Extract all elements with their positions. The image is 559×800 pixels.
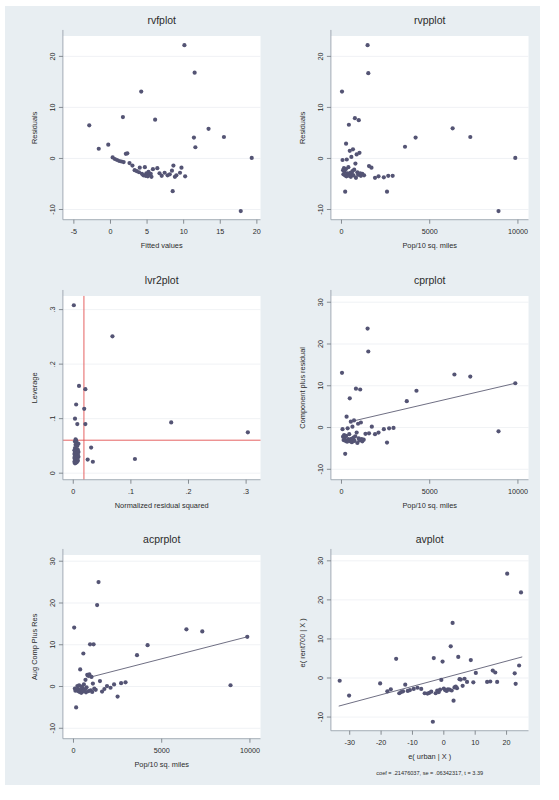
svg-text:cprplot: cprplot <box>414 275 446 286</box>
svg-text:0: 0 <box>316 425 324 429</box>
svg-text:20: 20 <box>502 739 510 747</box>
figure-page: -1001020-505101520rvfplotFitted valuesRe… <box>5 6 540 785</box>
svg-text:Residuals: Residuals <box>297 111 306 144</box>
svg-text:0: 0 <box>316 676 324 680</box>
chart-rvpplot: -10010200500010000rvpplotPop/10 sq. mile… <box>273 6 541 266</box>
svg-text:Residuals: Residuals <box>30 111 39 144</box>
svg-text:0: 0 <box>71 487 75 495</box>
svg-text:10: 10 <box>316 103 324 111</box>
svg-text:Leverage: Leverage <box>30 372 39 403</box>
svg-text:30: 30 <box>316 298 324 306</box>
svg-text:10: 10 <box>49 641 57 649</box>
panel-rvpplot: -10010200500010000rvpplotPop/10 sq. mile… <box>273 6 541 266</box>
svg-text:0: 0 <box>49 685 57 689</box>
svg-text:10000: 10000 <box>240 747 260 755</box>
svg-text:.2: .2 <box>186 487 192 495</box>
svg-text:20: 20 <box>49 599 57 607</box>
svg-text:Pop/10 sq. miles: Pop/10 sq. miles <box>402 241 457 250</box>
svg-text:10: 10 <box>49 103 57 111</box>
svg-text:30: 30 <box>49 558 57 566</box>
svg-text:15: 15 <box>216 228 224 236</box>
svg-text:20: 20 <box>316 340 324 348</box>
chart-avplot: -100102030-30-20-1001020avplote( urban |… <box>273 525 541 785</box>
svg-text:20: 20 <box>316 596 324 604</box>
svg-text:-10: -10 <box>316 204 324 214</box>
svg-text:10: 10 <box>316 635 324 643</box>
svg-text:-10: -10 <box>316 712 324 722</box>
svg-text:rvpplot: rvpplot <box>414 15 446 26</box>
svg-text:0: 0 <box>339 228 343 236</box>
svg-text:10000: 10000 <box>507 228 527 236</box>
svg-text:avplot: avplot <box>415 534 443 545</box>
svg-text:.2: .2 <box>49 361 57 367</box>
panel-lvr2plot: 0.1.2.30.1.2.3lvr2plotNormalized residua… <box>5 266 273 526</box>
panel-avplot: -100102030-30-20-1001020avplote( urban |… <box>273 525 541 785</box>
svg-text:-10: -10 <box>49 723 57 733</box>
svg-text:10: 10 <box>180 228 188 236</box>
chart-lvr2plot: 0.1.2.30.1.2.3lvr2plotNormalized residua… <box>5 266 273 526</box>
svg-text:0: 0 <box>316 156 324 160</box>
svg-text:-10: -10 <box>316 464 324 474</box>
svg-text:coef = .21476037, se = .063423: coef = .21476037, se = .06342317, t = 3.… <box>376 770 483 776</box>
svg-text:-30: -30 <box>344 739 354 747</box>
svg-text:-5: -5 <box>71 228 77 236</box>
svg-text:0: 0 <box>108 228 112 236</box>
svg-text:Pop/10 sq. miles: Pop/10 sq. miles <box>134 760 189 769</box>
svg-text:e( rent700 | X ): e( rent700 | X ) <box>297 619 306 668</box>
panel-rvfplot: -1001020-505101520rvfplotFitted valuesRe… <box>5 6 273 266</box>
svg-text:30: 30 <box>316 557 324 565</box>
svg-text:5000: 5000 <box>421 228 437 236</box>
svg-text:-20: -20 <box>375 739 385 747</box>
svg-text:.1: .1 <box>128 487 134 495</box>
svg-text:.3: .3 <box>49 306 57 312</box>
svg-text:10000: 10000 <box>507 487 527 495</box>
svg-text:.3: .3 <box>243 487 249 495</box>
svg-text:Component plus residual: Component plus residual <box>297 346 306 428</box>
panel-cprplot: -1001020300500010000cprplotPop/10 sq. mi… <box>273 266 541 526</box>
svg-text:-10: -10 <box>407 739 417 747</box>
svg-text:0: 0 <box>49 156 57 160</box>
svg-text:rvfplot: rvfplot <box>147 15 176 26</box>
chart-acprplot: -1001020300500010000acprplotPop/10 sq. m… <box>5 525 273 785</box>
svg-text:0: 0 <box>71 747 75 755</box>
svg-text:0: 0 <box>441 739 445 747</box>
svg-text:Fitted values: Fitted values <box>141 241 183 250</box>
svg-text:acprplot: acprplot <box>143 534 180 545</box>
svg-text:lvr2plot: lvr2plot <box>145 275 179 286</box>
svg-text:-10: -10 <box>49 204 57 214</box>
svg-text:0: 0 <box>49 471 57 475</box>
svg-text:Aug Comp Plus Res: Aug Comp Plus Res <box>30 614 39 681</box>
chart-cprplot: -1001020300500010000cprplotPop/10 sq. mi… <box>273 266 541 526</box>
chart-rvfplot: -1001020-505101520rvfplotFitted valuesRe… <box>5 6 273 266</box>
svg-text:Pop/10 sq. miles: Pop/10 sq. miles <box>402 500 457 509</box>
svg-text:e( urban | X ): e( urban | X ) <box>408 752 451 761</box>
svg-text:20: 20 <box>253 228 261 236</box>
svg-text:10: 10 <box>316 381 324 389</box>
panel-acprplot: -1001020300500010000acprplotPop/10 sq. m… <box>5 525 273 785</box>
svg-text:20: 20 <box>49 52 57 60</box>
svg-text:5: 5 <box>145 228 149 236</box>
svg-text:10: 10 <box>471 739 479 747</box>
svg-text:5000: 5000 <box>421 487 437 495</box>
svg-text:20: 20 <box>316 52 324 60</box>
svg-text:Normalized residual squared: Normalized residual squared <box>115 500 209 509</box>
svg-text:0: 0 <box>339 487 343 495</box>
plot-grid: -1001020-505101520rvfplotFitted valuesRe… <box>5 6 540 785</box>
svg-text:.1: .1 <box>49 415 57 421</box>
svg-text:5000: 5000 <box>154 747 170 755</box>
